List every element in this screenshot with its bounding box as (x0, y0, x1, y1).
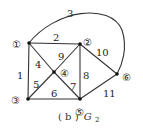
graph-diagram: ① ② ③ ④ ⑤ ⑥ 1 2 3 4 5 6 7 8 9 10 11 ( b … (0, 0, 143, 132)
edge-label-4: 4 (35, 59, 41, 70)
node-2-dot (78, 42, 82, 46)
node-4-dot (52, 70, 56, 74)
edge-label-2: 2 (53, 32, 59, 43)
caption-subscript: 2 (95, 116, 99, 124)
caption: ( b ) G 2 (58, 111, 99, 124)
node-6-dot (115, 72, 119, 76)
edge-label-6: 6 (51, 88, 57, 99)
caption-prefix: ( b ) (58, 111, 79, 122)
edge-label-9: 9 (58, 51, 64, 62)
caption-name: G (84, 111, 92, 122)
edge-1 (28, 43, 29, 99)
edge-label-10: 10 (96, 47, 109, 58)
edge-label-8: 8 (83, 70, 89, 81)
node-label-6: ⑥ (122, 72, 131, 83)
edge-2 (29, 43, 80, 44)
node-label-1: ① (12, 39, 21, 50)
edge-label-7: 7 (70, 81, 76, 92)
node-label-3: ③ (11, 95, 20, 106)
node-5-dot (78, 97, 82, 101)
node-label-2: ② (83, 37, 92, 48)
edge-label-5: 5 (33, 79, 39, 90)
edge-4 (29, 43, 54, 72)
node-label-4: ④ (60, 68, 69, 79)
edge-label-3: 3 (67, 8, 73, 19)
node-1-dot (27, 41, 31, 45)
edge-label-11: 11 (103, 88, 116, 99)
edge-label-1: 1 (17, 70, 23, 81)
node-3-dot (26, 97, 30, 101)
